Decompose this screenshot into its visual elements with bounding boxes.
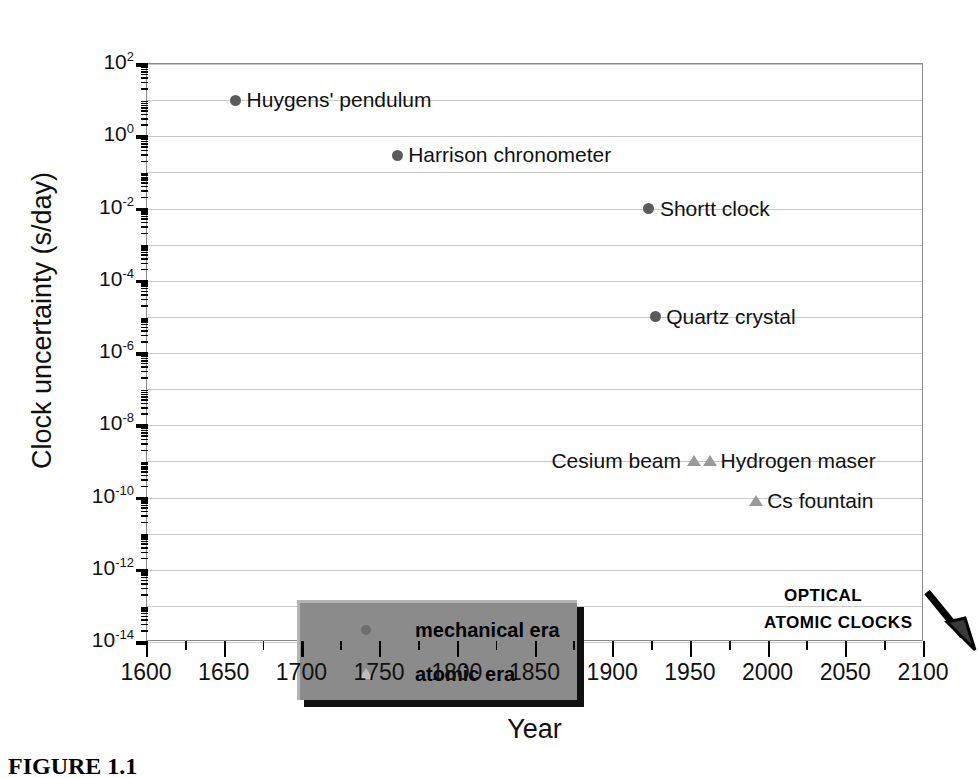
y-tick-minor bbox=[141, 226, 148, 228]
y-tick-minor bbox=[141, 430, 148, 432]
y-tick-minor bbox=[141, 399, 148, 401]
y-tick-minor bbox=[141, 209, 148, 211]
y-tick-minor bbox=[141, 211, 148, 213]
data-point-circle bbox=[392, 150, 403, 161]
y-tick-minor bbox=[141, 536, 148, 538]
legend-circle-marker-icon bbox=[361, 625, 371, 635]
y-tick-minor bbox=[141, 247, 148, 249]
y-tick-minor bbox=[141, 613, 148, 615]
y-tick-minor bbox=[141, 541, 148, 543]
x-tick-label: 2100 bbox=[878, 659, 968, 686]
y-tick-minor bbox=[141, 588, 148, 590]
y-tick-minor bbox=[141, 392, 148, 394]
annotation-optical: OPTICAL bbox=[784, 586, 862, 606]
y-tick-minor bbox=[141, 407, 148, 409]
y-tick-minor bbox=[141, 173, 148, 175]
y-tick-minor bbox=[141, 619, 148, 621]
data-point-label: Harrison chronometer bbox=[408, 144, 611, 165]
y-tick-minor bbox=[141, 305, 148, 307]
y-tick-label: 100 bbox=[103, 123, 134, 144]
y-tick-minor bbox=[141, 466, 148, 468]
x-axis: 1600165017001750180018501900195020002050… bbox=[146, 641, 923, 651]
y-tick-minor bbox=[141, 137, 148, 139]
y-tick-minor bbox=[141, 254, 148, 256]
x-tick-label: 2000 bbox=[723, 659, 813, 686]
y-tick-minor bbox=[141, 288, 148, 290]
x-tick-major bbox=[923, 641, 925, 657]
data-point-label: Hydrogen maser bbox=[721, 450, 876, 471]
gridline bbox=[147, 353, 922, 354]
x-tick-major bbox=[612, 641, 614, 657]
x-tick-major bbox=[768, 641, 770, 657]
y-tick-minor bbox=[141, 318, 148, 320]
y-tick-minor bbox=[141, 143, 148, 145]
gridline bbox=[147, 64, 922, 65]
y-tick-minor bbox=[141, 360, 148, 362]
x-tick-major bbox=[535, 641, 537, 657]
gridline bbox=[147, 245, 922, 246]
data-point-label: Quartz crystal bbox=[666, 306, 796, 327]
y-tick-minor bbox=[141, 616, 148, 618]
x-tick-label: 1800 bbox=[412, 659, 502, 686]
y-tick-minor bbox=[141, 432, 148, 434]
y-tick-minor bbox=[141, 443, 148, 445]
x-tick-major bbox=[457, 641, 459, 657]
y-tick-minor bbox=[141, 522, 148, 524]
y-tick-minor bbox=[141, 356, 148, 358]
x-tick-minor bbox=[418, 641, 420, 650]
y-tick-minor bbox=[141, 190, 148, 192]
y-tick-minor bbox=[141, 534, 148, 536]
data-point-label: Cs fountain bbox=[767, 490, 873, 511]
y-tick-minor bbox=[141, 502, 148, 504]
y-tick-minor bbox=[141, 216, 148, 218]
y-tick-minor bbox=[141, 263, 148, 265]
y-tick-minor bbox=[141, 101, 148, 103]
y-axis: 10210010-210-410-610-810-1010-1210-14 bbox=[140, 60, 148, 644]
y-tick-minor bbox=[141, 197, 148, 199]
y-tick-minor bbox=[141, 299, 148, 301]
y-tick-minor bbox=[141, 403, 148, 405]
x-tick-minor bbox=[573, 641, 575, 650]
y-tick-minor bbox=[141, 150, 148, 152]
y-tick-minor bbox=[141, 118, 148, 120]
y-tick-minor bbox=[141, 435, 148, 437]
data-point-circle bbox=[643, 203, 654, 214]
y-tick-minor bbox=[141, 413, 148, 415]
y-tick-minor bbox=[141, 110, 148, 112]
y-tick-minor bbox=[141, 577, 148, 579]
y-tick-minor bbox=[141, 630, 148, 632]
y-tick-minor bbox=[141, 475, 148, 477]
gridline bbox=[147, 570, 922, 571]
y-tick-minor bbox=[141, 426, 148, 428]
y-tick-minor bbox=[141, 390, 148, 392]
y-tick-minor bbox=[141, 114, 148, 116]
y-tick-minor bbox=[141, 182, 148, 184]
y-tick-minor bbox=[141, 450, 148, 452]
x-tick-minor bbox=[263, 641, 265, 650]
y-tick-minor bbox=[141, 610, 148, 612]
y-tick-minor bbox=[141, 543, 148, 545]
y-tick-minor bbox=[141, 500, 148, 502]
y-tick-minor bbox=[141, 558, 148, 560]
y-tick-minor bbox=[141, 428, 148, 430]
data-point-label: Shortt clock bbox=[660, 198, 770, 219]
y-tick-minor bbox=[141, 468, 148, 470]
y-tick-minor bbox=[141, 67, 148, 69]
x-tick-label: 1900 bbox=[567, 659, 657, 686]
y-tick-minor bbox=[141, 179, 148, 181]
y-tick-minor bbox=[141, 335, 148, 337]
y-tick-minor bbox=[141, 213, 148, 215]
plot-area: Huygens' pendulumHarrison chronometerSho… bbox=[146, 63, 923, 641]
x-tick-minor bbox=[806, 641, 808, 650]
y-tick-label: 102 bbox=[103, 51, 134, 72]
gridline bbox=[147, 136, 922, 137]
x-tick-minor bbox=[651, 641, 653, 650]
x-tick-label: 1700 bbox=[256, 659, 346, 686]
y-tick-minor bbox=[141, 377, 148, 379]
y-tick-minor bbox=[141, 218, 148, 220]
y-tick-minor bbox=[141, 439, 148, 441]
y-tick-minor bbox=[141, 283, 148, 285]
y-tick-label: 10-8 bbox=[99, 412, 134, 433]
x-tick-label: 1950 bbox=[645, 659, 735, 686]
y-tick-minor bbox=[141, 547, 148, 549]
